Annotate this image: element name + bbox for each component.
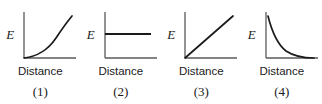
graph-svg-4 bbox=[244, 6, 320, 64]
panel-number-2: (2) bbox=[113, 84, 128, 99]
x-axis-label: Distance bbox=[179, 65, 224, 78]
x-axis-label: Distance bbox=[18, 65, 63, 78]
panel-number-4: (4) bbox=[274, 84, 289, 99]
x-axis-label: Distance bbox=[259, 65, 304, 78]
graph-panel-1: E Distance (1) bbox=[0, 6, 81, 99]
graph-panel-3: E Distance (3) bbox=[161, 6, 242, 99]
curve-linear-increase bbox=[185, 16, 233, 58]
graph-panel-2: E Distance (2) bbox=[81, 6, 162, 99]
graph-svg-2 bbox=[83, 6, 159, 64]
x-axis-label: Distance bbox=[98, 65, 143, 78]
graph-svg-3 bbox=[163, 6, 239, 64]
panel-number-1: (1) bbox=[33, 84, 48, 99]
graph-panel-4: E Distance (4) bbox=[242, 6, 322, 99]
curve-exponential-increase bbox=[24, 16, 72, 58]
graph-svg-1 bbox=[2, 6, 78, 64]
curve-inverse-decay bbox=[268, 16, 314, 58]
plot-area-4: E bbox=[244, 6, 320, 64]
plot-area-3: E bbox=[163, 6, 239, 64]
plot-area-1: E bbox=[2, 6, 78, 64]
panel-number-3: (3) bbox=[194, 84, 209, 99]
figure-panel-row: E Distance (1) E Distance (2) E bbox=[0, 0, 322, 104]
plot-area-2: E bbox=[83, 6, 159, 64]
